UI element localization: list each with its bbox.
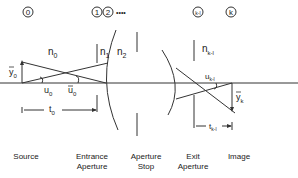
- y0-symbol: y0: [9, 67, 18, 79]
- label-exit-2: Aperture: [178, 162, 209, 171]
- tk1-symbol: tk-l: [209, 122, 217, 132]
- marginal-ray-k: [176, 83, 232, 99]
- surface-0-label: 0: [26, 8, 31, 17]
- angle-u0-arc: [40, 77, 43, 83]
- medium-n1: n1: [100, 46, 110, 59]
- angle-ubar0-arc: [76, 76, 79, 83]
- label-exit-1: Exit: [186, 152, 200, 161]
- arrow-head-icon: [227, 124, 232, 128]
- diagram-svg: 0 1 2 •••• k-l k n0 n1 n2 nk-l y0 u0 u0 …: [0, 0, 298, 178]
- label-stop-2: Stop: [138, 162, 155, 171]
- t0-symbol: t0: [49, 104, 56, 116]
- label-source: Source: [13, 152, 39, 161]
- u0-symbol: u0: [44, 85, 53, 97]
- label-entrance-1: Entrance: [76, 152, 109, 161]
- label-stop-1: Aperture: [131, 152, 162, 161]
- surface-k1-label: k-l: [195, 10, 200, 16]
- medium-n0: n0: [48, 46, 58, 59]
- yk-symbol: yk: [236, 92, 245, 104]
- surface-k-label: k: [229, 8, 234, 17]
- surface-1-label: 1: [95, 8, 100, 17]
- optical-system-diagram: 0 1 2 •••• k-l k n0 n1 n2 nk-l y0 u0 u0 …: [0, 0, 298, 178]
- surface-2-label: 2: [106, 8, 111, 17]
- uk1-symbol: uk-l: [205, 72, 215, 82]
- surfaces-ellipsis: ••••: [116, 9, 126, 16]
- label-entrance-2: Aperture: [77, 162, 108, 171]
- arrow-head-icon: [92, 108, 97, 112]
- medium-nk1: nk-l: [202, 43, 214, 56]
- medium-n2: n2: [117, 46, 127, 59]
- surface-1-curve: [106, 30, 118, 130]
- ubar0-symbol: u0: [68, 85, 77, 97]
- label-image: Image: [228, 152, 251, 161]
